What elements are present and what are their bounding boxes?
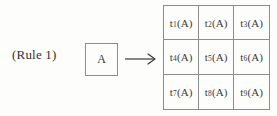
grid-cell: t2(A)	[199, 6, 234, 40]
cell-subscript: 4	[173, 54, 177, 63]
cell-argument: (A)	[212, 86, 227, 98]
cell-subscript: 8	[208, 89, 212, 98]
cell-argument: (A)	[248, 51, 263, 63]
cell-argument: (A)	[212, 51, 227, 63]
grid-cell: t4(A)	[164, 40, 199, 74]
cell-argument: (A)	[248, 17, 263, 29]
cell-argument: (A)	[248, 86, 263, 98]
arrow-right-icon	[124, 52, 160, 66]
grid-cell: t1(A)	[164, 6, 199, 40]
grid-cell: t5(A)	[199, 40, 234, 74]
result-grid: t1(A)t2(A)t3(A)t4(A)t5(A)t6(A)t7(A)t8(A)…	[163, 5, 270, 110]
cell-argument: (A)	[177, 86, 192, 98]
cell-subscript: 5	[208, 54, 212, 63]
grid-cell: t7(A)	[164, 75, 199, 109]
grid-cell: t3(A)	[234, 6, 269, 40]
cell-argument: (A)	[177, 17, 192, 29]
grid-cell: t6(A)	[234, 40, 269, 74]
rule-label: (Rule 1)	[12, 47, 57, 63]
cell-subscript: 6	[243, 54, 247, 63]
cell-subscript: 2	[208, 20, 212, 29]
cell-subscript: 9	[243, 89, 247, 98]
source-box-symbol: A	[86, 44, 117, 75]
grid-cell: t8(A)	[199, 75, 234, 109]
cell-subscript: 7	[173, 89, 177, 98]
cell-subscript: 3	[243, 20, 247, 29]
cell-argument: (A)	[212, 17, 227, 29]
source-box: A	[85, 43, 118, 76]
rule-diagram: (Rule 1) A t1(A)t2(A)t3(A)t4(A)t5(A)t6(A…	[0, 0, 277, 116]
cell-subscript: 1	[173, 20, 177, 29]
grid-cell: t9(A)	[234, 75, 269, 109]
cell-argument: (A)	[177, 51, 192, 63]
